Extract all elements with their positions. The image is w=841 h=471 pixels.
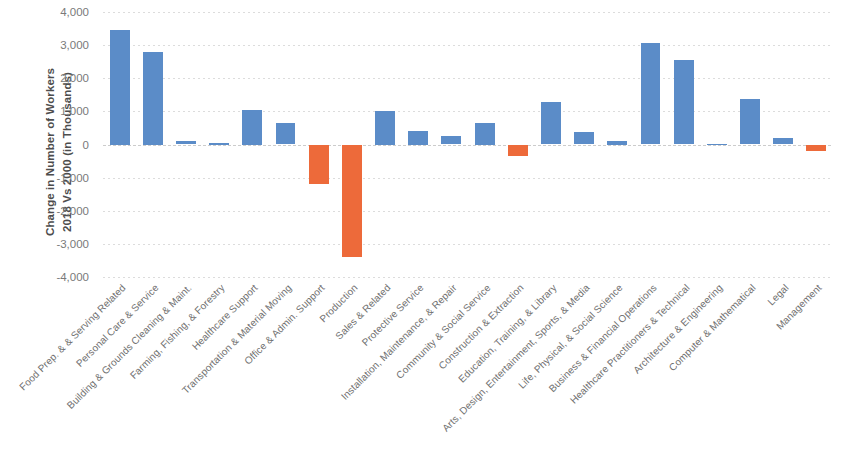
- bar: [607, 141, 627, 144]
- y-axis-tick-label: 2,000: [31, 72, 89, 84]
- bar: [475, 123, 495, 145]
- bar: [674, 60, 694, 145]
- bar: [508, 145, 528, 156]
- y-axis-tick-label: -4,000: [31, 271, 89, 283]
- y-axis-tick-label: 4,000: [31, 6, 89, 18]
- plot-area: 4,0003,0002,0001,0000-1,000-2,000-3,000-…: [103, 12, 833, 277]
- x-axis-tick-label: Building & Grounds Cleaning & Maint.: [65, 282, 194, 411]
- x-axis-tick-label: Healthcare Practitioners & Technical: [568, 282, 692, 406]
- x-axis-tick-labels: Food Prep. & & Serving RelatedPersonal C…: [103, 282, 833, 471]
- bar: [408, 131, 428, 144]
- y-axis-tick-label: 3,000: [31, 39, 89, 51]
- y-axis-tick-label: -1,000: [31, 172, 89, 184]
- bar: [342, 145, 362, 258]
- y-axis-tick-label: 1,000: [31, 105, 89, 117]
- bar: [242, 110, 262, 145]
- bar: [740, 99, 760, 145]
- bar: [773, 138, 793, 144]
- bar-chart: Change in Number of Workers 2018 Vs 2000…: [0, 0, 841, 471]
- bar-series: [103, 12, 833, 277]
- bar: [441, 136, 461, 145]
- bar: [641, 43, 661, 144]
- y-axis-tick-label: -3,000: [31, 238, 89, 250]
- bar: [574, 132, 594, 144]
- bar: [309, 145, 329, 184]
- bar: [176, 141, 196, 145]
- y-axis-tick-label: 0: [31, 139, 89, 151]
- bar: [209, 143, 229, 145]
- bar: [707, 144, 727, 146]
- bar: [541, 102, 561, 144]
- bar: [143, 52, 163, 145]
- bar: [110, 30, 130, 144]
- gridline: [103, 277, 833, 278]
- bar: [375, 111, 395, 144]
- x-axis-tick-label: Legal: [766, 282, 791, 307]
- bar: [276, 123, 296, 144]
- y-axis-tick-label: -2,000: [31, 205, 89, 217]
- bar: [806, 145, 826, 152]
